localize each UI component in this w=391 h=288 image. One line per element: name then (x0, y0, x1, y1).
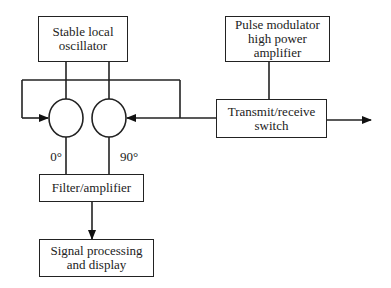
signal-label-1: Signal processing (50, 244, 142, 258)
signal-label-2: and display (67, 258, 127, 272)
mixer-90-circle (92, 99, 126, 137)
pulse-modulator-block: Pulse modulator high power amplifier (225, 16, 330, 62)
oscillator-block: Stable local oscillator (38, 16, 128, 62)
transmit-receive-switch-block: Transmit/receive switch (216, 99, 327, 138)
signal-processing-block: Signal processing and display (39, 239, 154, 277)
pulse-label-1: Pulse modulator (235, 18, 320, 32)
filter-amplifier-block: Filter/amplifier (39, 174, 144, 202)
phase-label-90: 90° (117, 150, 141, 164)
oscillator-label-1: Stable local (52, 25, 113, 39)
tr-label-1: Transmit/receive (228, 105, 316, 119)
pulse-label-2: high power (248, 32, 307, 46)
mixer-0-circle (49, 99, 83, 137)
filter-label: Filter/amplifier (52, 181, 131, 195)
phase-label-0: 0° (48, 150, 64, 164)
tr-label-2: switch (255, 119, 289, 133)
oscillator-label-2: oscillator (59, 39, 107, 53)
pulse-label-3: amplifier (254, 46, 302, 60)
